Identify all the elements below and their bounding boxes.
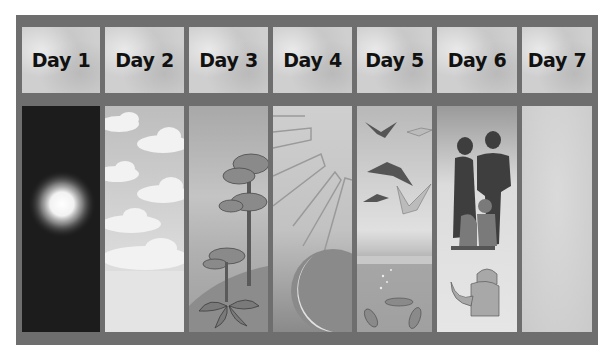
sun-moon-icon	[273, 106, 352, 332]
day-6-panel	[437, 106, 517, 332]
day-5-panel	[357, 106, 432, 332]
day-3-header: Day 3	[189, 27, 268, 93]
day-5-label: Day 5	[365, 49, 424, 71]
day-1-label: Day 1	[32, 49, 91, 71]
day-2-header: Day 2	[105, 27, 184, 93]
creation-days-frame: Day 1 Day 2 Day 3 Day 4 Day 5 Day 6 Day …	[16, 15, 598, 345]
day-2-label: Day 2	[115, 49, 174, 71]
clouds-icon	[105, 106, 184, 332]
day-5-header: Day 5	[357, 27, 432, 93]
day-4-panel	[273, 106, 352, 332]
people-animals-icon	[437, 106, 517, 332]
day-4-header: Day 4	[273, 27, 352, 93]
day-7-panel	[522, 106, 592, 332]
day-7-label: Day 7	[528, 49, 587, 71]
birds-fish-icon	[357, 106, 432, 332]
day-1-panel	[22, 106, 100, 332]
day-7-header: Day 7	[522, 27, 592, 93]
day-3-label: Day 3	[199, 49, 258, 71]
day-1-header: Day 1	[22, 27, 100, 93]
day-4-label: Day 4	[283, 49, 342, 71]
day-6-label: Day 6	[448, 49, 507, 71]
day-6-header: Day 6	[437, 27, 517, 93]
day-2-panel	[105, 106, 184, 332]
light-glow-icon	[22, 106, 100, 332]
day-3-panel	[189, 106, 268, 332]
tree-plant-icon	[189, 106, 268, 332]
